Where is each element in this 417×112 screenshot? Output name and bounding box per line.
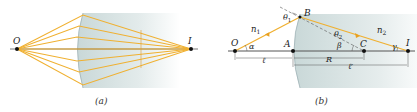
- center-point-c: [362, 49, 366, 53]
- vertex-point-a: [291, 49, 295, 53]
- label-beta: β: [336, 41, 342, 50]
- panel-b: O A B C I n1 n2 α θ1 θ2 β γ ℓ R ℓ′ (b): [228, 7, 417, 106]
- object-label-a: O: [13, 36, 21, 46]
- label-theta1: θ1: [283, 13, 291, 23]
- label-radius: R: [325, 55, 332, 64]
- incidence-point-b: [299, 16, 302, 19]
- label-object-distance: ℓ: [262, 56, 266, 65]
- label-o: O: [231, 38, 239, 48]
- label-i: I: [405, 38, 410, 48]
- object-point-b: [233, 49, 237, 53]
- image-label-a: I: [187, 36, 192, 46]
- caption-a: (a): [95, 96, 108, 106]
- label-b: B: [303, 8, 311, 18]
- image-point-b: [406, 49, 410, 53]
- label-c: C: [360, 39, 367, 49]
- label-n1: n1: [251, 24, 260, 35]
- object-point-a: [15, 47, 19, 51]
- label-a: A: [283, 39, 291, 49]
- label-image-distance: ℓ′: [348, 62, 353, 71]
- caption-b: (b): [315, 96, 328, 106]
- refraction-diagram: O I (a) O A B C I n1 n2 α θ1 θ: [0, 0, 417, 112]
- medium-region-a: [78, 13, 181, 88]
- label-gamma: γ: [392, 42, 397, 51]
- panel-a: O I (a): [10, 13, 198, 106]
- image-point-a: [189, 47, 193, 51]
- label-alpha: α: [249, 42, 255, 51]
